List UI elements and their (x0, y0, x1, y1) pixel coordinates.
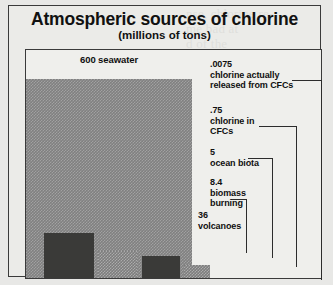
chart-title: Atmospheric sources of chlorine (9, 9, 320, 29)
chart-plot-area: 600 seawater .0075 chlorine actually rel… (25, 49, 322, 279)
bar-chlorine-in-cfcs (184, 265, 210, 278)
bar-volcanoes (44, 233, 94, 278)
label-released-value: .0075 (210, 59, 232, 69)
label-seawater: 600 seawater (26, 55, 192, 66)
leader-line-ocean-biota-drop (272, 158, 273, 258)
label-volcanoes-line2: volcanoes (198, 221, 241, 231)
label-biomass-burning: 8.4 biomass burning (210, 177, 246, 209)
label-biomass-line3: burning (210, 198, 243, 208)
label-released-line2: chlorine actually (210, 70, 279, 80)
leader-line-biomass-drop (246, 199, 247, 253)
leader-line-released-horizontal (292, 80, 322, 81)
label-chlorine-in-cfcs: .75 chlorine in CFCs (210, 105, 254, 137)
label-cfcs-value: .75 (210, 105, 222, 115)
label-ocean-biota-line2: ocean biota (210, 158, 259, 168)
label-chlorine-released-from-cfcs: .0075 chlorine actually released from CF… (210, 59, 293, 91)
bar-biomass-burning (98, 251, 137, 278)
label-volcanoes-value: 36 (198, 210, 208, 220)
label-ocean-biota: 5 ocean biota (210, 147, 259, 168)
label-cfcs-line2: chlorine in (210, 116, 254, 126)
chart-subtitle: (millions of tons) (9, 29, 320, 42)
label-biomass-line2: biomass (210, 188, 246, 198)
label-released-line3: released from CFCs (210, 80, 293, 90)
chart-title-block: Atmospheric sources of chlorine (million… (9, 9, 320, 42)
leader-line-cfcs-horizontal (259, 126, 297, 127)
chart-outer-frame: Atmospheric sources of chlorine (million… (8, 5, 321, 277)
label-biomass-value: 8.4 (210, 177, 222, 187)
leader-line-released-drop (321, 80, 322, 280)
leader-line-cfcs-drop (296, 126, 297, 267)
label-ocean-biota-value: 5 (210, 147, 215, 157)
bar-ocean-biota (142, 256, 180, 278)
label-volcanoes: 36 volcanoes (198, 210, 241, 231)
label-cfcs-line3: CFCs (210, 126, 233, 136)
